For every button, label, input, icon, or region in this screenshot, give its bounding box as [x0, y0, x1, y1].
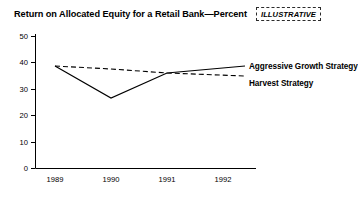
series-aggressive-growth-strategy	[55, 66, 245, 98]
x-tick-label-1992: 1992	[203, 176, 243, 184]
legend-item-harvest-strategy: Harvest Strategy	[249, 79, 313, 88]
y-tick-label-20: 20	[12, 112, 28, 120]
y-tick-label-40: 40	[12, 59, 28, 67]
y-tick-label-10: 10	[12, 139, 28, 147]
y-tick-label-30: 30	[12, 86, 28, 94]
y-tick-label-50: 50	[12, 33, 28, 41]
series-harvest-strategy	[55, 66, 245, 76]
legend-item-aggressive-growth-strategy: Aggressive Growth Strategy	[249, 62, 358, 71]
x-tick-label-1989: 1989	[35, 176, 75, 184]
x-tick-label-1991: 1991	[147, 176, 187, 184]
chart-axes	[31, 34, 256, 169]
y-tick-label-0: 0	[12, 165, 28, 173]
x-tick-label-1990: 1990	[91, 176, 131, 184]
y-axis-ticks	[31, 37, 36, 169]
